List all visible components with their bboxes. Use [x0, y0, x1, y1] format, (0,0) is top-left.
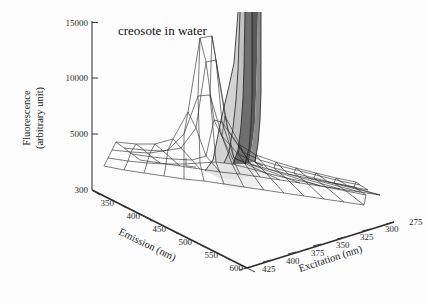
- excitation-tick-label-325: 325: [360, 232, 374, 242]
- fluorescence-axis-title-line1: Fluorescence: [21, 90, 32, 146]
- emission-axis-title: Emission (nm): [117, 226, 179, 264]
- emission-tick-label-600: 600: [230, 263, 244, 273]
- fluorescence-axis: 15000 10000 5000: [66, 18, 99, 191]
- fluorescence-3d-surface-plot: creosote in water 15000 10000 5000 Fluor…: [0, 0, 428, 305]
- emission-tick-label-550: 550: [205, 250, 219, 260]
- emission-tick-label-400: 400: [127, 211, 141, 221]
- excitation-tick-label-300: 300: [385, 224, 399, 234]
- emission-tick-label-450: 450: [153, 224, 167, 234]
- emission-tick-label-350: 350: [101, 198, 115, 208]
- fluorescence-axis-title-line2: (arbitrary unit): [34, 86, 46, 149]
- emission-tick-label-300: 300: [75, 185, 89, 195]
- fluorescence-tick-label-15000: 15000: [66, 18, 89, 28]
- emission-axis-ticks: 300 350 400 450 500 550 600: [75, 185, 256, 273]
- figure-container: creosote in water 15000 10000 5000 Fluor…: [0, 0, 428, 305]
- emission-tick-label-500: 500: [179, 237, 193, 247]
- excitation-tick-label-425: 425: [262, 264, 276, 274]
- fluorescence-axis-title: Fluorescence (arbitrary unit): [21, 86, 46, 149]
- excitation-axis-ticks: 425 400 375 350 325 300 275: [239, 217, 423, 274]
- fluorescence-tick-label-10000: 10000: [66, 73, 89, 83]
- excitation-axis-title: Excitation (nm): [297, 243, 364, 275]
- fluorescence-tick-label-5000: 5000: [70, 129, 89, 139]
- excitation-tick-label-275: 275: [409, 217, 423, 227]
- plot-title: creosote in water: [118, 23, 207, 38]
